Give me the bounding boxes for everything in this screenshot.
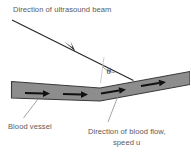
blood-flow-label-line1: Direction of blood flow, bbox=[88, 127, 166, 136]
ultrasound-beam-group bbox=[12, 20, 134, 81]
blood-vessel-label: Blood vessel bbox=[8, 122, 52, 131]
blood-vessel-band bbox=[12, 72, 191, 102]
theta-symbol-label: θ bbox=[107, 66, 112, 76]
blood-vessel-leader-line bbox=[24, 99, 39, 118]
blood-flow-leader-line bbox=[108, 96, 118, 122]
ultrasound-beam-line bbox=[12, 20, 134, 81]
beam-label: Direction of ultrasound beam bbox=[13, 5, 111, 14]
diagram-canvas: Direction of ultrasound beam θ bbox=[0, 0, 190, 157]
blood-flow-label-line2: speed u bbox=[113, 138, 140, 147]
vessel-axis-reference-line bbox=[101, 57, 105, 83]
ultrasound-doppler-diagram: Direction of ultrasound beam θ bbox=[0, 0, 190, 157]
